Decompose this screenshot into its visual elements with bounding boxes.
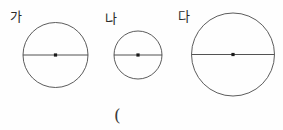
circle-ga-center-dot [54,53,57,56]
shape-group-da [192,13,275,96]
answer-parenthesis: ( [114,107,121,124]
figure-root: 가 나 다 ( [0,0,283,130]
circle-label-da: 다 [178,10,190,23]
shape-group-na [114,31,162,79]
circle-label-na: 나 [105,12,117,25]
circle-label-ga: 가 [10,10,22,23]
circle-da-center-dot [231,53,234,56]
circles-diagram [0,0,283,130]
shape-group-ga [23,23,88,88]
circle-na-center-dot [136,53,139,56]
